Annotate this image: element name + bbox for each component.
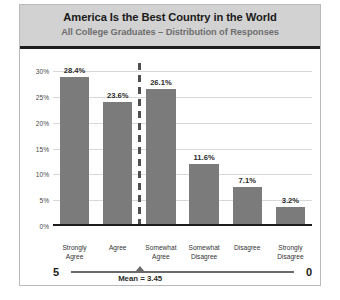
y-axis-tick-label: 15% [23, 145, 49, 152]
bar-value-label: 23.6% [96, 91, 139, 100]
category-label-line: Agree [53, 252, 96, 261]
chart-title: America Is the Best Country in the World [20, 11, 320, 23]
bar[interactable] [276, 207, 305, 224]
y-axis-tick-label: 30% [23, 68, 49, 75]
divider-dashed-line [138, 63, 141, 224]
bar-group: 26.1% [139, 69, 182, 224]
chart-subtitle: All College Graduates – Distribution of … [20, 27, 320, 37]
y-axis: 0%5%10%15%20%25%30% [23, 69, 49, 226]
mean-label: Mean = 3.45 [118, 274, 162, 283]
plot-wrapper: 0%5%10%15%20%25%30% 28.4%23.6%26.1%11.6%… [20, 53, 320, 243]
category-label: StronglyAgree [53, 243, 96, 261]
bar-group: 7.1% [226, 69, 269, 224]
bar-value-label: 11.6% [183, 153, 226, 162]
mean-scale: 5 0 Mean = 3.45 [53, 266, 312, 286]
category-label-line: Agree [96, 243, 139, 252]
scale-min-label: 0 [306, 266, 312, 278]
x-axis-baseline [53, 224, 312, 226]
y-axis-tick-label: 0% [23, 223, 49, 230]
mean-scale-track [71, 271, 294, 273]
bar-value-label: 7.1% [226, 176, 269, 185]
category-label: SomewhatDisagree [183, 243, 226, 261]
bar[interactable] [103, 102, 132, 224]
header-divider-rule [20, 46, 320, 49]
mean-marker-triangle [135, 266, 145, 272]
category-label-line: Strongly [269, 243, 312, 252]
category-label: Agree [96, 243, 139, 252]
chart-header-band: America Is the Best Country in the World… [20, 5, 320, 46]
category-label-line: Somewhat [139, 243, 182, 252]
bar-value-label: 3.2% [269, 196, 312, 205]
bar[interactable] [60, 77, 89, 224]
y-axis-tick-label: 20% [23, 119, 49, 126]
y-axis-tick-label: 10% [23, 171, 49, 178]
category-label-line: Somewhat [183, 243, 226, 252]
category-label-line: Disagree [226, 243, 269, 252]
category-axis: StronglyAgreeAgreeSomewhatAgreeSomewhatD… [53, 243, 312, 265]
bar-group: 28.4% [53, 69, 96, 224]
category-label-line: Disagree [269, 252, 312, 261]
bar-group: 23.6% [96, 69, 139, 224]
bar-value-label: 26.1% [139, 78, 182, 87]
bar-group: 3.2% [269, 69, 312, 224]
category-label: SomewhatAgree [139, 243, 182, 261]
category-label: Disagree [226, 243, 269, 252]
category-label-line: Agree [139, 252, 182, 261]
category-label: StronglyDisagree [269, 243, 312, 261]
plot-area: 28.4%23.6%26.1%11.6%7.1%3.2% [53, 69, 312, 226]
bar[interactable] [146, 89, 175, 224]
bar[interactable] [189, 164, 218, 224]
bar-group: 11.6% [183, 69, 226, 224]
y-axis-tick-label: 25% [23, 93, 49, 100]
bar-value-label: 28.4% [53, 66, 96, 75]
category-label-line: Strongly [53, 243, 96, 252]
chart-figure: America Is the Best Country in the World… [19, 4, 321, 286]
category-label-line: Disagree [183, 252, 226, 261]
scale-max-label: 5 [53, 266, 59, 278]
y-axis-tick-label: 5% [23, 197, 49, 204]
bar[interactable] [233, 187, 262, 224]
